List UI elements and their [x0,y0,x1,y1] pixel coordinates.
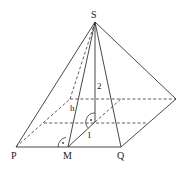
label-M: M [63,150,72,161]
pyramid-diagram: S P M Q h 2 1 [0,0,186,169]
label-P: P [11,150,17,161]
label-h: h [70,103,75,113]
label-S: S [91,9,97,20]
right-angle-dot-O [90,119,92,121]
edge-SP [16,22,95,147]
label-Q: Q [117,150,125,161]
right-angle-dot-M [62,142,64,144]
slant-height-SM [68,22,95,147]
edge-S-backright [95,22,176,99]
hidden-O-extension [95,99,121,122]
label-2: 2 [97,81,102,91]
hidden-edge-S-backleft [70,22,95,99]
right-angle-mark-M [58,137,66,147]
label-1: 1 [87,130,92,140]
